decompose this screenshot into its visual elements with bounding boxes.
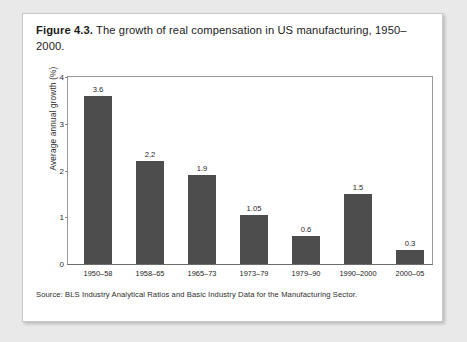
bar — [84, 96, 112, 264]
bar — [136, 161, 164, 264]
plot-area: 012343.61950–582.21958–651.91965–731.051… — [68, 77, 432, 264]
x-axis-category-label: 1958–65 — [136, 269, 165, 278]
y-axis-tick-mark — [65, 77, 68, 78]
source-note: Source: BLS Industry Analytical Ratios a… — [36, 290, 431, 299]
bar-value-label: 3.6 — [93, 85, 104, 94]
x-axis-category-label: 1973–79 — [240, 269, 269, 278]
bar-value-label: 1.05 — [247, 204, 262, 213]
bar-group: 1.51990–2000 — [332, 77, 384, 264]
figure-card: Figure 4.3. The growth of real compensat… — [22, 13, 443, 322]
y-axis-tick-label: 2 — [60, 166, 64, 175]
bar-value-label: 0.6 — [301, 225, 312, 234]
x-axis-category-label: 1965–73 — [188, 269, 217, 278]
bar-value-label: 0.3 — [405, 239, 416, 248]
bar — [344, 194, 372, 264]
bar-value-label: 1.9 — [197, 164, 208, 173]
x-axis-category-label: 1979–90 — [292, 269, 321, 278]
bar-value-label: 2.2 — [145, 150, 156, 159]
x-axis-category-label: 1950–58 — [84, 269, 113, 278]
bar-group: 3.61950–58 — [72, 77, 124, 264]
bar-group: 1.051973–79 — [228, 77, 280, 264]
bar-group: 2.21958–65 — [124, 77, 176, 264]
bar — [396, 250, 424, 264]
y-axis-tick-label: 3 — [60, 119, 64, 128]
y-axis-tick-mark — [65, 124, 68, 125]
y-axis-tick-mark — [65, 217, 68, 218]
bar-group: 0.32000–05 — [384, 77, 436, 264]
y-axis-tick-label: 1 — [60, 213, 64, 222]
y-axis-tick-mark — [65, 171, 68, 172]
bar-chart: Average annual growth (%) 012343.61950–5… — [23, 14, 444, 323]
bar-group: 0.61979–90 — [280, 77, 332, 264]
bar — [240, 215, 268, 264]
bar-group: 1.91965–73 — [176, 77, 228, 264]
bar — [188, 175, 216, 264]
x-axis-category-label: 2000–05 — [396, 269, 425, 278]
plot-frame: 012343.61950–582.21958–651.91965–731.051… — [67, 76, 433, 265]
x-axis-category-label: 1990–2000 — [340, 269, 377, 278]
y-axis-tick-label: 4 — [60, 73, 64, 82]
y-axis-tick-label: 0 — [60, 260, 64, 269]
y-axis-title: Average annual growth (%) — [49, 39, 58, 199]
bar-value-label: 1.5 — [353, 183, 364, 192]
bar — [292, 236, 320, 264]
